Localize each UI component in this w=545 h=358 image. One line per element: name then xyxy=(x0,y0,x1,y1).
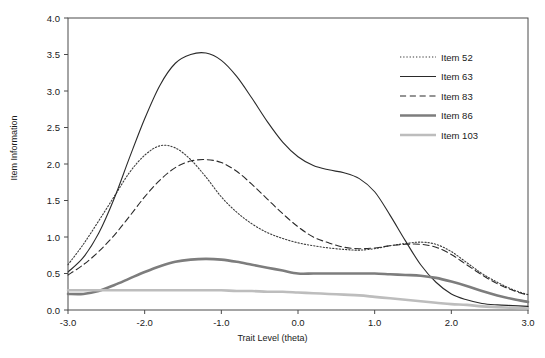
x-tick-label: 0.0 xyxy=(291,317,304,328)
y-tick-label: 0.0 xyxy=(47,305,60,316)
x-tick-label: -2.0 xyxy=(136,317,152,328)
curve-item-86 xyxy=(68,259,528,302)
y-tick-label: 3.0 xyxy=(47,86,60,97)
curve-item-103 xyxy=(68,290,528,308)
item-information-chart: 0.00.51.01.52.02.53.03.54.0 -3.0-2.0-1.0… xyxy=(0,0,545,358)
x-tick-label: -3.0 xyxy=(60,317,76,328)
x-tick-label: 2.0 xyxy=(445,317,458,328)
y-tick-label: 3.5 xyxy=(47,49,60,60)
x-tick-label: -1.0 xyxy=(213,317,229,328)
x-tick-label: 3.0 xyxy=(521,317,534,328)
legend: Item 52Item 63Item 83Item 86Item 103 xyxy=(400,52,478,141)
y-tick-label: 1.0 xyxy=(47,232,60,243)
x-tick-label: 1.0 xyxy=(368,317,381,328)
x-axis-title: Trait Level (theta) xyxy=(0,333,545,343)
y-tick-label: 1.5 xyxy=(47,195,60,206)
y-axis-ticks: 0.00.51.01.52.02.53.03.54.0 xyxy=(47,13,68,316)
y-tick-label: 2.5 xyxy=(47,122,60,133)
legend-label-item-83: Item 83 xyxy=(441,91,473,102)
y-tick-label: 0.5 xyxy=(47,268,60,279)
legend-label-item-86: Item 86 xyxy=(441,110,473,121)
y-axis-title: Item Information xyxy=(9,100,19,196)
legend-label-item-63: Item 63 xyxy=(441,71,473,82)
y-tick-label: 2.0 xyxy=(47,159,60,170)
legend-label-item-103: Item 103 xyxy=(441,130,478,141)
x-axis-ticks: -3.0-2.0-1.00.01.02.03.0 xyxy=(60,310,535,328)
chart-canvas: 0.00.51.01.52.02.53.03.54.0 -3.0-2.0-1.0… xyxy=(0,0,545,358)
y-tick-label: 4.0 xyxy=(47,13,60,24)
legend-label-item-52: Item 52 xyxy=(441,52,473,63)
